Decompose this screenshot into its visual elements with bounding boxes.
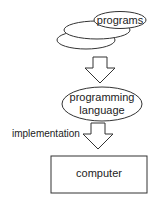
implementation-label: implementation	[12, 128, 80, 139]
language-label-line1: programming	[70, 91, 135, 103]
language-label-line2: language	[79, 104, 124, 116]
computer-label: computer	[76, 167, 122, 179]
programs-label: programs	[97, 14, 144, 26]
arrow-down-icon	[85, 57, 115, 83]
arrow-down-icon	[83, 123, 113, 149]
diagram-canvas: programs programming language implementa…	[0, 0, 158, 205]
